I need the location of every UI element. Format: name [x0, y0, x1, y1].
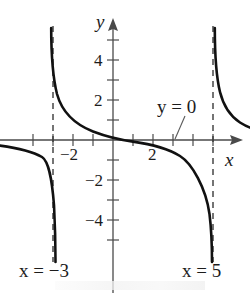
curve-branch-left	[0, 146, 56, 262]
rational-function-graph	[0, 0, 250, 293]
y-tick-label-2: 2	[94, 92, 103, 109]
y-equals-0-leader-line	[175, 116, 185, 139]
left-asymptote-label: x = −3	[19, 261, 69, 280]
y-axis	[108, 18, 118, 293]
y-axis-label: y	[96, 12, 104, 31]
x-tick-label-neg2: −2	[60, 146, 78, 163]
x-axis-label: x	[225, 150, 233, 169]
y-tick-label-4: 4	[94, 52, 103, 69]
bottom-text-fragment	[55, 281, 205, 290]
x-tick-label-2: 2	[148, 146, 157, 163]
top-text-fragment	[2, 0, 72, 12]
y-tick-label-neg2: −2	[85, 172, 103, 189]
horizontal-asymptote-label: y = 0	[157, 97, 196, 116]
right-asymptote-label: x = 5	[182, 261, 221, 280]
y-tick-label-neg4: −4	[85, 212, 103, 229]
curve-branch-right	[215, 28, 250, 128]
